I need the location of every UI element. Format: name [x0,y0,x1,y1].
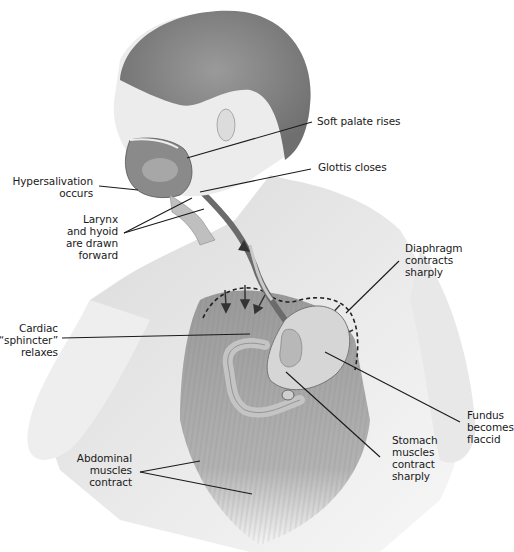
label-larynx: Larynx and hyoid are drawn forward [38,213,118,261]
label-soft-palate: Soft palate rises [317,115,400,127]
label-glottis: Glottis closes [318,161,387,173]
label-diaphragm: Diaphragm contracts sharply [405,242,463,278]
label-fundus: Fundus becomes flaccid [467,409,514,445]
label-abdominal: Abdominal muscles contract [32,452,132,488]
label-stomach: Stomach muscles contract sharply [392,434,438,482]
label-hypersalivation: Hypersalivation occurs [0,175,93,199]
label-cardiac: Cardiac “sphincter” relaxes [0,322,58,358]
